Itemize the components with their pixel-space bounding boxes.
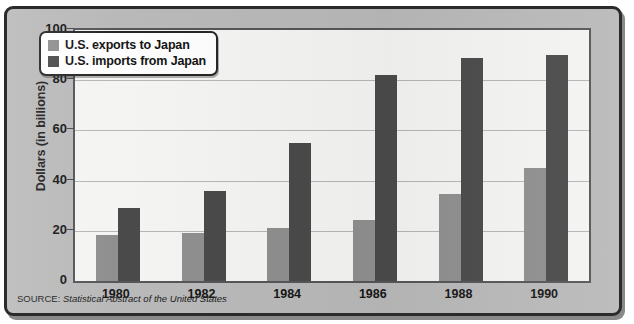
bar-imports bbox=[289, 143, 311, 281]
bar-group bbox=[353, 75, 397, 281]
bar-exports bbox=[353, 220, 375, 281]
bar-imports bbox=[546, 55, 568, 281]
legend-swatch-exports-icon bbox=[48, 40, 59, 51]
legend-item-exports: U.S. exports to Japan bbox=[48, 37, 206, 53]
source-prefix: SOURCE: bbox=[17, 293, 60, 304]
bar-imports bbox=[204, 191, 226, 281]
bar-group bbox=[96, 208, 140, 281]
source-title: Statistical Abstract of the United State… bbox=[63, 293, 227, 304]
bar-imports bbox=[118, 208, 140, 281]
y-tick-mark bbox=[67, 78, 74, 79]
y-tick-label: 60 bbox=[23, 121, 67, 136]
bar-imports bbox=[375, 75, 397, 281]
y-tick-mark bbox=[67, 179, 74, 180]
source-note: SOURCE: Statistical Abstract of the Unit… bbox=[17, 293, 227, 304]
bar-exports bbox=[182, 233, 204, 281]
bar-group bbox=[182, 191, 226, 281]
y-tick-mark bbox=[67, 28, 74, 29]
legend-label-exports: U.S. exports to Japan bbox=[65, 38, 190, 52]
chart-figure: Dollars (in billions) 020406080100 19801… bbox=[4, 6, 622, 316]
bar-exports bbox=[439, 194, 461, 281]
legend-label-imports: U.S. imports from Japan bbox=[65, 54, 206, 68]
bar-group bbox=[439, 58, 483, 281]
gridline bbox=[75, 231, 589, 232]
y-tick-label: 40 bbox=[23, 171, 67, 186]
bar-exports bbox=[96, 235, 118, 281]
gridline bbox=[75, 130, 589, 131]
gridline bbox=[75, 181, 589, 182]
bar-imports bbox=[461, 58, 483, 281]
y-tick-label: 20 bbox=[23, 221, 67, 236]
legend-item-imports: U.S. imports from Japan bbox=[48, 53, 206, 69]
legend-swatch-imports-icon bbox=[48, 56, 59, 67]
bar-exports bbox=[267, 228, 289, 281]
x-tick-label: 1988 bbox=[445, 287, 473, 301]
bar-group bbox=[524, 55, 568, 281]
gridline bbox=[75, 80, 589, 81]
y-tick-label: 0 bbox=[23, 272, 67, 287]
chart-legend: U.S. exports to Japan U.S. imports from … bbox=[39, 31, 218, 76]
x-tick-label: 1990 bbox=[530, 287, 558, 301]
bar-group bbox=[267, 143, 311, 281]
y-tick-mark bbox=[67, 128, 74, 129]
x-tick-label: 1986 bbox=[359, 287, 387, 301]
bar-exports bbox=[524, 168, 546, 281]
y-tick-mark bbox=[67, 229, 74, 230]
x-tick-label: 1984 bbox=[273, 287, 301, 301]
